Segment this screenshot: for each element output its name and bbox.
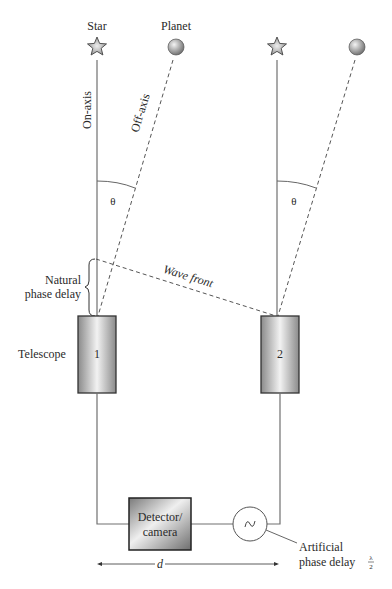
artificial-label-1: Artificial (299, 540, 344, 554)
lambda-numerator: λ (369, 554, 373, 562)
natural-phase-delay-label-1: Natural (45, 273, 82, 287)
telescope-1-number: 1 (94, 347, 100, 361)
signal-wire-left (97, 393, 129, 524)
artificial-delay-leader (266, 530, 297, 543)
off-axis-label: Off-axis (128, 91, 153, 133)
on-axis-label: On-axis (80, 91, 94, 129)
wave-front-label: Wave front (162, 262, 216, 291)
phase-delay-brace (85, 259, 95, 316)
lambda-denominator: 2 (369, 563, 373, 571)
interferometer-diagram: Star Planet On-axis Off-axis θ θ Wave fr… (0, 0, 392, 589)
arrowhead-right-icon (274, 562, 279, 566)
planet-label: Planet (161, 19, 192, 33)
theta-label-left: θ (110, 195, 115, 207)
baseline-label: d (157, 557, 164, 571)
detector-label-2: camera (143, 525, 178, 539)
telescope-label: Telescope (18, 347, 66, 361)
theta-arc-right (277, 181, 316, 188)
off-axis-ray-right (278, 60, 355, 316)
off-axis-ray-left (98, 60, 173, 316)
theta-arc-left (97, 181, 135, 188)
star-label: Star (87, 19, 106, 33)
theta-label-right: θ (291, 195, 296, 207)
star-icon (268, 37, 287, 55)
natural-phase-delay-label-2: phase delay (25, 287, 81, 301)
artificial-label-2: phase delay (299, 555, 355, 569)
star-icon (88, 37, 107, 55)
detector-camera-box (129, 498, 191, 550)
planet-icon (168, 39, 184, 55)
detector-label-1: Detector/ (138, 510, 183, 524)
signal-wire-right (267, 393, 280, 524)
planet-icon (349, 39, 365, 55)
telescope-2-number: 2 (277, 347, 283, 361)
arrowhead-left-icon (97, 562, 102, 566)
